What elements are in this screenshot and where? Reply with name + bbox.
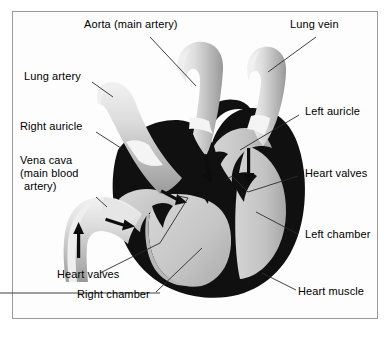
label-heart-valves-right: Heart valves — [305, 167, 367, 180]
label-vena-cava-line1: Vena cava — [20, 154, 72, 167]
leader-heart-muscle — [262, 273, 296, 290]
label-vena-cava-line3: artery) — [24, 180, 56, 193]
label-heart-muscle: Heart muscle — [298, 285, 364, 298]
label-left-chamber: Left chamber — [305, 228, 370, 241]
label-vena-cava-line2: (main blood — [20, 167, 79, 180]
label-heart-valves-left: Heart valves — [57, 268, 119, 281]
heart-diagram-page: Aorta (main artery) Lung vein Lung arter… — [0, 0, 392, 342]
label-lung-vein: Lung vein — [290, 18, 339, 31]
label-right-auricle: Right auricle — [20, 120, 82, 133]
label-left-auricle: Left auricle — [305, 105, 360, 118]
label-lung-artery: Lung artery — [24, 70, 81, 83]
label-aorta: Aorta (main artery) — [84, 18, 178, 31]
label-right-chamber: Right chamber — [77, 288, 150, 301]
